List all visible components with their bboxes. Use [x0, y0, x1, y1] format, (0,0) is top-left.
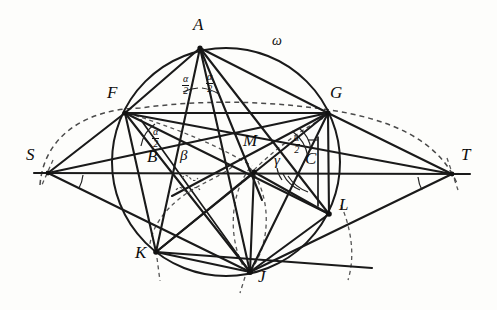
dot-G	[325, 110, 330, 115]
dashed-spur-K	[157, 258, 160, 281]
point-label-S: S	[26, 146, 35, 163]
alpha-numerator: α	[152, 127, 159, 137]
seg-GT	[328, 113, 452, 174]
angle-arc-T	[418, 177, 422, 190]
angle-label-alpha-half-G: α 2	[293, 133, 300, 155]
alpha-denominator: 2	[293, 145, 300, 155]
angle-arc-S	[79, 175, 83, 188]
point-label-L: L	[339, 196, 348, 213]
point-label-B: B	[147, 148, 157, 165]
alpha-numerator: α	[206, 72, 213, 82]
seg-GL	[328, 113, 329, 214]
dot-L	[326, 211, 332, 217]
alpha-numerator: α	[182, 74, 189, 84]
point-label-M: M	[243, 132, 257, 149]
point-label-J: J	[258, 268, 266, 285]
dot-T	[450, 172, 455, 177]
dashed-arc-L-down	[341, 205, 352, 280]
dashed-spur-J	[240, 277, 245, 293]
dot-F	[122, 110, 127, 115]
dot-J	[247, 269, 253, 275]
construction-lines	[34, 48, 470, 272]
point-label-C: C	[305, 150, 316, 167]
angle-label-beta: β	[180, 148, 187, 163]
dot-A	[197, 45, 202, 50]
point-label-T: T	[461, 146, 470, 163]
alpha-denominator: 2	[182, 86, 189, 96]
alpha-numerator: α	[293, 133, 300, 143]
point-label-G: G	[330, 84, 342, 101]
figure-canvas	[0, 0, 497, 310]
circle-label-omega: ω	[272, 34, 282, 48]
angle-label-alpha-half-F: α 2	[152, 127, 159, 149]
point-label-F: F	[107, 84, 117, 101]
alpha-denominator: 2	[206, 84, 213, 94]
angle-label-alpha-half-A-left: α 2	[182, 74, 189, 96]
dot-K	[153, 249, 159, 255]
angle-label-alpha-half-A-right: α 2	[206, 72, 213, 94]
point-label-K: K	[135, 244, 146, 261]
angle-label-gamma: γ	[274, 153, 280, 168]
alpha-denominator: 2	[152, 139, 159, 149]
seg-MJ	[250, 172, 254, 272]
geometry-figure: A F G S T B C M K L J ω β γ α 2 α 2 α 2 …	[0, 0, 497, 310]
dot-M	[251, 169, 256, 174]
point-label-A: A	[193, 16, 203, 33]
dot-S	[46, 171, 51, 176]
